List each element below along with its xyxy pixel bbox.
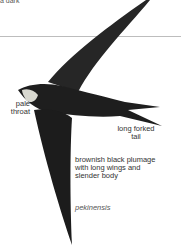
label-subspecies: pekinensis: [75, 204, 110, 212]
label-plumage: brownish black plumage with long wings a…: [75, 156, 165, 180]
label-pale-throat: pale throat: [8, 100, 30, 116]
label-long-forked-tail: long forked tail: [113, 125, 159, 141]
